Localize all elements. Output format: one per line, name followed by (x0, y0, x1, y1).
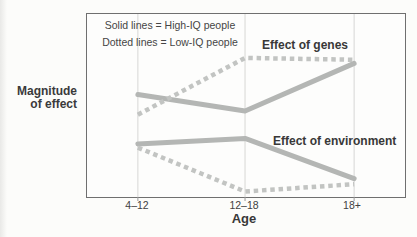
series-line (138, 58, 354, 115)
scanned-chart-figure: Magnitude of effect Solid lines = High-I… (0, 0, 417, 237)
scan-edge-artifact (0, 0, 7, 237)
y-axis-label-line2: of effect (0, 98, 77, 111)
legend-entry-solid: Solid lines = High-IQ people (95, 17, 245, 34)
annotation-effect-of-genes: Effect of genes (262, 38, 348, 52)
series-line (138, 63, 354, 111)
series-line (138, 148, 354, 192)
legend-entry-dotted: Dotted lines = Low-IQ people (95, 34, 245, 51)
annotation-effect-of-environment: Effect of environment (273, 134, 396, 148)
x-tick-4-12: 4–12 (125, 199, 148, 211)
y-axis-label: Magnitude of effect (0, 85, 77, 111)
x-axis-label: Age (232, 211, 257, 226)
plot-area: Solid lines = High-IQ people Dotted line… (86, 13, 406, 198)
legend: Solid lines = High-IQ people Dotted line… (95, 17, 245, 51)
x-tick-18plus: 18+ (343, 199, 361, 211)
x-tick-12-18: 12–18 (229, 199, 258, 211)
